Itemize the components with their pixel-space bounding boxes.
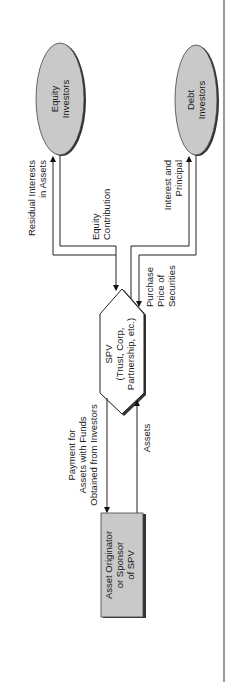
equity-investors-label-1: Equity (49, 86, 60, 113)
originator-flows (107, 398, 137, 513)
payment-for-assets-label-3: Obtained from Investors (88, 404, 99, 506)
debt-investors-label-1: Debt (185, 90, 196, 110)
originator-label-3: of SPV (125, 550, 136, 580)
payment-for-assets-label-1: Payment for (66, 429, 77, 480)
purchase-price-label-1: Purchase (144, 267, 155, 307)
equity-investors-label-2: Investors (60, 79, 71, 118)
equity-contribution-label-2: Contribution (101, 189, 112, 240)
originator-label-1: Asset Originator (103, 531, 114, 599)
securitization-diagram: Equity Investors Debt Investors SPV (Tru… (0, 0, 234, 682)
debt-investors-label-2: Investors (196, 80, 207, 119)
residual-interests-label-1: Residual Interests (26, 160, 37, 236)
purchase-price-label-3: Securities (166, 265, 177, 307)
purchase-price-label-2: Price of (155, 274, 166, 307)
spv-label-1: SPV (103, 344, 114, 364)
payment-for-assets-label-2: Assets with Funds (77, 416, 88, 493)
equity-contribution-label-1: Equity (90, 213, 101, 240)
residual-interests-label-2: in Assets (37, 160, 48, 198)
originator-label-2: or Sponsor (114, 542, 125, 588)
debt-investors-node: Debt Investors (175, 45, 219, 156)
assets-label: Assets (141, 423, 152, 452)
spv-node: SPV (Trust, Corp, Partnership, etc.) (100, 289, 146, 416)
interest-principal-label-2: Principal (173, 160, 184, 196)
spv-label-2: (Trust, Corp, (114, 328, 125, 381)
equity-investors-node: Equity Investors (36, 43, 86, 156)
interest-principal-label-1: Interest and (162, 160, 173, 210)
spv-label-3: Partnership, etc.) (125, 318, 136, 390)
originator-node: Asset Originator or Sponsor of SPV (101, 513, 146, 618)
